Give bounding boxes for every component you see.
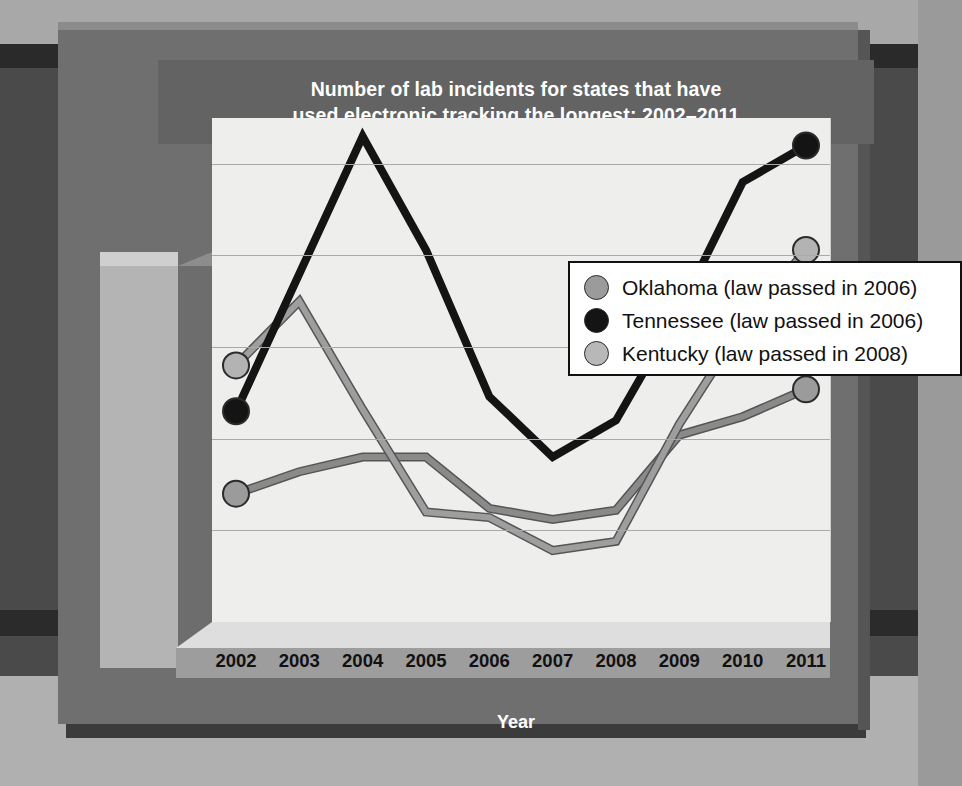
series-endpoint-marker [793,237,819,263]
series-endpoint-marker [223,352,249,378]
gridline [212,255,830,256]
x-axis-tick-label: 2009 [659,650,700,672]
x-axis-tick-label: 2006 [469,650,510,672]
series-endpoint-marker [793,132,819,158]
gridline [212,439,830,440]
plot-floor-top [176,622,830,648]
y-axis-slab-side [178,266,212,668]
legend-item-label: Tennessee (law passed in 2006) [622,309,923,333]
series-endpoint-marker [223,398,249,424]
legend-item-label: Oklahoma (law passed in 2006) [622,276,917,300]
x-axis-tick-label: 2008 [595,650,636,672]
legend-swatch-circle-icon [584,341,609,366]
x-axis-tick-label: 2011 [786,650,826,672]
x-axis-tick-label: 2010 [722,650,763,672]
x-axis-tick-label: 2004 [342,650,383,672]
legend-item[interactable]: Oklahoma (law passed in 2006) [584,271,950,304]
x-axis-tick-labels: 2002200320042005200620072008200920102011 [176,650,830,676]
x-axis-tick-label: 2005 [405,650,446,672]
x-axis-title: Year [116,712,916,733]
chart-title-line-1: Number of lab incidents for states that … [293,76,740,102]
y-axis-slab-top-side [178,252,212,266]
x-axis-tick-label: 2007 [532,650,573,672]
legend-item[interactable]: Tennessee (law passed in 2006) [584,304,950,337]
plot-area: 05001,0001,5002,0002,500 200220032004200… [100,118,830,678]
legend-swatch-circle-icon [584,275,609,300]
x-axis-tick-label: 2002 [215,650,256,672]
gridline [212,530,830,531]
gridline [212,164,830,165]
series-line [236,389,806,519]
series-endpoint-marker [793,376,819,402]
chart-legend: Oklahoma (law passed in 2006)Tennessee (… [568,261,962,376]
legend-swatch-circle-icon [584,308,609,333]
y-axis-slab-top [100,252,178,266]
y-axis-slab-face [100,266,178,668]
legend-item[interactable]: Kentucky (law passed in 2008) [584,337,950,370]
series-line-outline [236,389,806,519]
series-endpoint-marker [223,481,249,507]
legend-item-label: Kentucky (law passed in 2008) [622,342,908,366]
x-axis-tick-label: 2003 [279,650,320,672]
